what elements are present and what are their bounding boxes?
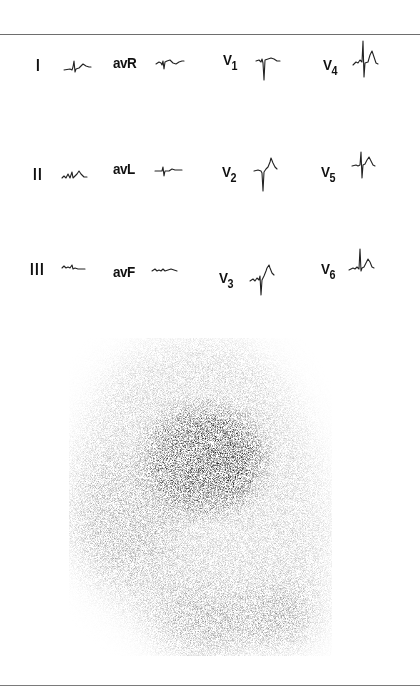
lead-label-V3: V3	[219, 269, 233, 291]
ecg-trace-V2	[254, 157, 284, 197]
bottom-divider	[0, 685, 420, 686]
lead-label-V2: V2	[222, 163, 236, 185]
lead-label-avR: avR	[113, 54, 136, 71]
ecg-trace-V5	[352, 150, 382, 186]
lead-label-II: II	[33, 165, 43, 185]
top-divider	[0, 34, 420, 35]
ecg-trace-avR	[156, 56, 186, 76]
ecg-trace-V3	[250, 263, 280, 303]
lead-label-V6: V6	[321, 260, 335, 282]
ecg-trace-V6	[349, 247, 379, 281]
lead-label-avF: avF	[113, 263, 135, 280]
ecg-trace-II	[62, 168, 92, 184]
lead-label-I: I	[36, 56, 41, 76]
lead-label-avL: avL	[113, 160, 135, 177]
ecg-trace-III	[62, 262, 92, 276]
ecg-trace-V1	[256, 56, 286, 86]
ecg-trace-avL	[155, 164, 185, 180]
lead-label-V1: V1	[223, 51, 237, 73]
ecg-trace-I	[64, 58, 94, 78]
lead-label-III: III	[30, 260, 45, 280]
ecg-trace-avF	[152, 264, 182, 278]
scintigram-image	[0, 300, 420, 680]
lead-label-V4: V4	[323, 56, 337, 78]
lead-label-V5: V5	[321, 163, 335, 185]
ecg-trace-V4	[353, 39, 383, 79]
